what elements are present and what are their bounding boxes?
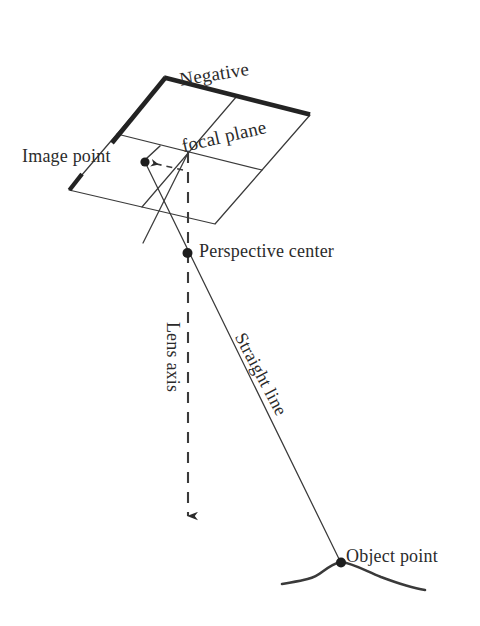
figure-title-line-2: focal plane xyxy=(180,117,269,157)
label-perspective-center: Perspective center xyxy=(199,241,334,261)
figure-root: Negative focal plane Image point Perspec… xyxy=(0,0,480,626)
terrain-profile xyxy=(282,562,425,590)
figure-title-line-1: Negative xyxy=(170,56,258,90)
label-lens-axis: Lens axis xyxy=(163,315,183,399)
image-point-dot xyxy=(140,157,149,166)
object-point-dot xyxy=(336,558,346,568)
image-point-tick xyxy=(147,146,160,158)
terrain-curve xyxy=(282,562,425,590)
thick-edge-left-top xyxy=(112,78,166,144)
perspective-center-dot xyxy=(183,248,193,258)
label-object-point: Object point xyxy=(346,546,438,566)
thick-edge-left-stub xyxy=(70,174,83,190)
label-image-point: Image point xyxy=(22,146,111,166)
